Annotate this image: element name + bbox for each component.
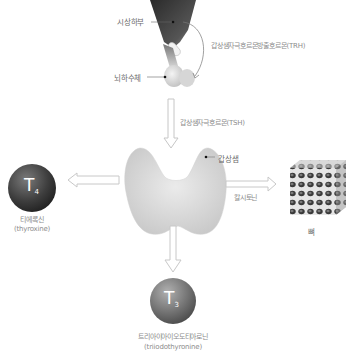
t3-arrow bbox=[165, 226, 181, 272]
t4-subscript: 4 bbox=[34, 188, 38, 196]
trh-label: 갑상샘자극호르몬방출호르몬(TRH) bbox=[211, 40, 305, 50]
t3-symbol-letter: T bbox=[164, 288, 174, 308]
t3-label-en: (triiodothyronine) bbox=[118, 343, 228, 351]
hypothalamus-label: 시상하부 bbox=[117, 16, 144, 27]
hypothalamus-illustration bbox=[150, 0, 196, 56]
thyroid-illustration bbox=[125, 148, 227, 234]
tsh-label: 갑상샘자극호르몬(TSH) bbox=[180, 117, 245, 127]
tsh-arrow bbox=[164, 99, 178, 148]
thyroid-label: 갑상샘 bbox=[218, 153, 238, 164]
pituitary-illustration bbox=[147, 44, 195, 87]
bone-illustration bbox=[290, 160, 346, 215]
t4-arrow bbox=[68, 173, 119, 187]
t4-symbol: T4 bbox=[24, 175, 39, 196]
t4-symbol-letter: T bbox=[24, 175, 34, 195]
calcitonin-arrow bbox=[226, 177, 276, 191]
calcitonin-label: 칼시토닌 bbox=[234, 192, 257, 202]
pituitary-label: 뇌하수체 bbox=[114, 72, 141, 83]
bone-label: 뼈 bbox=[308, 226, 315, 237]
t3-subscript: 3 bbox=[174, 301, 178, 309]
t3-label-ko: 트리아이아이오도티아로닌 bbox=[118, 331, 228, 341]
t4-label-ko: 티에록신 bbox=[0, 214, 64, 224]
t4-label-en: (thyroxine) bbox=[0, 225, 64, 233]
t3-symbol: T3 bbox=[164, 288, 179, 309]
